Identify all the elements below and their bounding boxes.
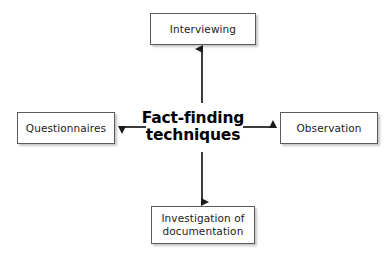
diagram-canvas: Fact-finding techniques Interviewing Que…	[0, 0, 386, 256]
center-label-line-2: techniques	[146, 127, 240, 144]
center-node-fact-finding-techniques: Fact-finding techniques	[133, 104, 253, 150]
center-label-line-1: Fact-finding	[142, 110, 244, 127]
